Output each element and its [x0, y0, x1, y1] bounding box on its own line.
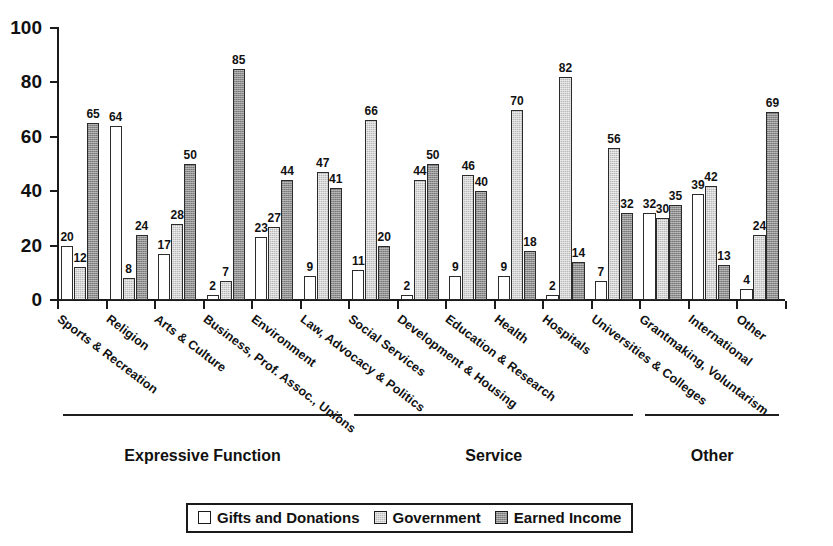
- bar: [268, 227, 280, 300]
- bar-value-label: 13: [712, 250, 736, 262]
- bar: [304, 276, 316, 300]
- x-axis-tick: [300, 301, 302, 309]
- bar: [572, 262, 584, 300]
- section-label: Service: [354, 447, 633, 465]
- y-axis-tick-label: 20: [0, 235, 42, 257]
- bar: [158, 254, 170, 300]
- bar: [401, 295, 413, 300]
- bar-value-label: 69: [760, 97, 784, 109]
- bar-value-label: 50: [178, 149, 202, 161]
- x-axis-tick: [348, 301, 350, 309]
- dark-gray-square-swatch: [495, 511, 508, 524]
- bar: [74, 267, 86, 300]
- bar: [378, 246, 390, 300]
- x-axis-tick: [542, 301, 544, 309]
- white-square-swatch: [198, 511, 211, 524]
- bar: [87, 123, 99, 300]
- bar-value-label: 50: [421, 149, 445, 161]
- legend-label: Gifts and Donations: [217, 509, 360, 526]
- x-axis-tick: [203, 301, 205, 309]
- bar-value-label: 40: [469, 176, 493, 188]
- legend-item[interactable]: Gifts and Donations: [198, 509, 360, 526]
- bar-value-label: 41: [324, 173, 348, 185]
- bar-value-label: 82: [553, 62, 577, 74]
- bar: [595, 281, 607, 300]
- x-axis-tick: [785, 301, 787, 309]
- bar: [621, 213, 633, 300]
- x-axis-tick: [688, 301, 690, 309]
- x-axis-tick: [397, 301, 399, 309]
- legend-label: Earned Income: [514, 509, 622, 526]
- bar: [281, 180, 293, 300]
- bar: [365, 120, 377, 300]
- bar: [317, 172, 329, 300]
- x-axis-tick: [445, 301, 447, 309]
- section-label: Other: [645, 447, 779, 465]
- bar-chart: 020406080100 201265648241728502785232744…: [0, 0, 833, 546]
- bar: [136, 235, 148, 300]
- bar-value-label: 32: [615, 198, 639, 210]
- x-axis-tick: [154, 301, 156, 309]
- x-axis-tick: [57, 301, 59, 309]
- category-label: Health: [491, 312, 530, 347]
- y-axis-tick-label: 60: [0, 126, 42, 148]
- bar-value-label: 18: [518, 236, 542, 248]
- bar: [692, 194, 704, 300]
- plot-area: 2012656482417285027852327449474111662024…: [57, 28, 785, 300]
- bar-value-label: 46: [456, 160, 480, 172]
- bar: [475, 191, 487, 300]
- bar-value-label: 14: [566, 247, 590, 259]
- chart-legend: Gifts and DonationsGovernmentEarned Inco…: [186, 503, 633, 533]
- bar: [559, 77, 571, 300]
- bar-value-label: 24: [130, 220, 154, 232]
- bar: [608, 148, 620, 300]
- bar-value-label: 42: [699, 171, 723, 183]
- bar: [123, 278, 135, 300]
- bar: [184, 164, 196, 300]
- bar: [220, 281, 232, 300]
- bar-value-label: 65: [81, 108, 105, 120]
- light-gray-square-swatch: [374, 511, 387, 524]
- category-label: Other: [734, 312, 769, 344]
- bar: [233, 69, 245, 300]
- bar: [656, 218, 668, 300]
- bar-value-label: 44: [275, 165, 299, 177]
- bar: [330, 188, 342, 300]
- bar-value-label: 35: [663, 190, 687, 202]
- legend-label: Government: [393, 509, 481, 526]
- bar: [352, 270, 364, 300]
- x-axis-tick: [736, 301, 738, 309]
- y-axis-tick-label: 40: [0, 180, 42, 202]
- y-axis-tick-label: 0: [0, 289, 42, 311]
- bar: [171, 224, 183, 300]
- x-axis-tick: [639, 301, 641, 309]
- x-axis-tick: [251, 301, 253, 309]
- legend-item[interactable]: Government: [374, 509, 481, 526]
- bar-value-label: 20: [55, 231, 79, 243]
- bar-value-label: 20: [372, 231, 396, 243]
- bar: [546, 295, 558, 300]
- category-label: Hospitals: [540, 312, 594, 358]
- bar: [427, 164, 439, 300]
- legend-item[interactable]: Earned Income: [495, 509, 622, 526]
- bar-value-label: 85: [227, 54, 251, 66]
- bar: [766, 112, 778, 300]
- x-axis-tick: [494, 301, 496, 309]
- bar: [498, 276, 510, 300]
- bar-value-label: 47: [311, 157, 335, 169]
- bar: [669, 205, 681, 300]
- section-rule: [645, 414, 779, 416]
- x-axis-tick: [106, 301, 108, 309]
- bar: [511, 110, 523, 300]
- bar: [462, 175, 474, 300]
- bar: [449, 276, 461, 300]
- y-axis-tick-label: 80: [0, 71, 42, 93]
- bar: [740, 289, 752, 300]
- bar: [207, 295, 219, 300]
- bar: [718, 265, 730, 300]
- bar-value-label: 70: [505, 95, 529, 107]
- bar: [524, 251, 536, 300]
- bar-value-label: 56: [602, 133, 626, 145]
- bar: [705, 186, 717, 300]
- section-label: Expressive Function: [63, 447, 342, 465]
